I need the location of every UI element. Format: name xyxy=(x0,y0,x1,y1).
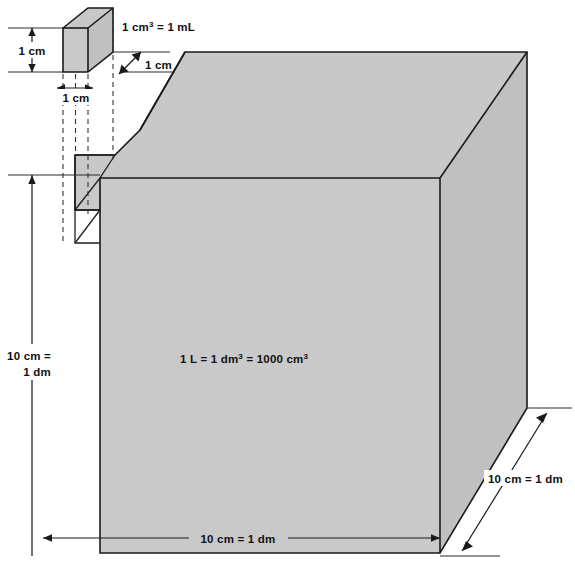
center-pre: 1 L = 1 dm xyxy=(180,353,238,365)
large-cube-height-label-line2: 1 dm xyxy=(23,366,51,378)
large-cube-width-label: 10 cm = 1 dm xyxy=(201,533,276,545)
equivalence-pre: 1 cm xyxy=(122,21,149,33)
large-width-arrow-left xyxy=(43,534,52,541)
large-depth-arrow-upper xyxy=(536,413,547,423)
large-height-arrow-up xyxy=(28,175,35,184)
equivalence-post: = 1 mL xyxy=(154,21,195,33)
large-cube-depth-label: 10 cm = 1 dm xyxy=(488,473,563,485)
small-height-arrow-down xyxy=(28,64,35,72)
small-cube-front-face xyxy=(63,28,88,72)
notch-lower-diagonal xyxy=(75,210,100,243)
center-mid: = 1000 cm xyxy=(243,353,304,365)
volume-diagram: 1 cm 1 cm 1 cm 1 cm3 = 1 mL 10 cm = 1 dm… xyxy=(0,0,575,569)
large-cube-front-face xyxy=(75,178,440,553)
figure-canvas: 1 cm 1 cm 1 cm 1 cm3 = 1 mL 10 cm = 1 dm… xyxy=(0,0,575,569)
large-depth-arrow-lower xyxy=(462,541,473,551)
small-height-arrow-up xyxy=(28,28,35,36)
small-cube-height-label: 1 cm xyxy=(18,45,45,57)
small-cube-equivalence-label: 1 cm3 = 1 mL xyxy=(122,20,195,33)
large-cube-height-label-line1: 10 cm = xyxy=(7,350,51,362)
center-sup2: 3 xyxy=(304,352,309,361)
center-equivalence-label: 1 L = 1 dm3 = 1000 cm3 xyxy=(180,352,309,365)
small-cube-depth-label: 1 cm xyxy=(145,59,172,71)
small-cube-width-label: 1 cm xyxy=(62,92,89,104)
